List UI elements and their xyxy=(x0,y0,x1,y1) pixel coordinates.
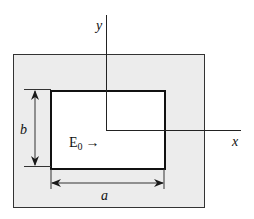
y-axis-label: y xyxy=(94,18,103,33)
aperture-diagram: y x b a E0→ xyxy=(0,0,254,219)
field-label-subscript: 0 xyxy=(78,141,83,152)
diagram-canvas: y x b a E0→ xyxy=(0,0,254,219)
width-label-a: a xyxy=(101,188,108,203)
height-label-b: b xyxy=(20,122,27,137)
field-label-base: E xyxy=(69,135,78,150)
field-direction-arrow: → xyxy=(86,135,100,150)
x-axis-label: x xyxy=(231,134,239,149)
